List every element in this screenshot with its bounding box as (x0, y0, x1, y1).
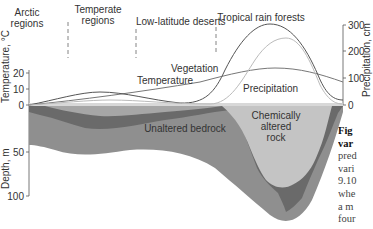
region-labels: Arctic regions Temperate regions Low-lat… (11, 4, 305, 29)
region-dividers (68, 22, 216, 58)
vegetation-label: Vegetation (171, 63, 218, 74)
depth-axis: 50 100 Depth, m (0, 105, 29, 202)
region-temperate-line1: Temperate (74, 4, 122, 15)
caption-bold-line-1: Fig (338, 125, 373, 138)
unaltered-bedrock-label: Unaltered bedrock (144, 123, 227, 134)
precipitation-axis-label: Precipitation, cm (361, 23, 372, 97)
region-arctic-line1: Arctic (15, 7, 40, 18)
depth-axis-label: Depth, m (0, 148, 11, 189)
caption-line: four (338, 213, 373, 226)
temperature-axis-label: Temperature, °C (0, 30, 11, 103)
caption-line: vari (338, 163, 373, 176)
caption-line: are (338, 226, 373, 229)
altered-rock-label-2: altered (261, 121, 292, 132)
temperature-axis: 20 10 0 Temperature, °C (0, 30, 29, 111)
caption-line: pred (338, 150, 373, 163)
depth-tick-100: 100 (7, 191, 24, 202)
altered-rock-label-1: Chemically (252, 110, 301, 121)
temp-tick-20: 20 (13, 68, 25, 79)
caption-line: a m (338, 201, 373, 214)
temp-tick-10: 10 (13, 84, 25, 95)
region-rainforests: Tropical rain forests (217, 12, 304, 23)
caption-bold-line-2: var (338, 138, 373, 151)
precip-tick-0: 0 (348, 100, 354, 111)
region-deserts: Low-latitude deserts (136, 16, 226, 27)
temperature-label: Temperature (137, 75, 194, 86)
caption-line: whe (338, 188, 373, 201)
weathering-profile-figure: Arctic regions Temperate regions Low-lat… (0, 0, 373, 229)
depth-tick-50: 50 (13, 147, 25, 158)
caption-line: 9.10 (338, 175, 373, 188)
precipitation-axis: 300 200 100 0 Precipitation, cm (343, 20, 372, 111)
region-temperate-line2: regions (82, 15, 115, 26)
figure-caption: Fig var pred vari 9.10 whe a m four are (338, 125, 373, 229)
temp-tick-0: 0 (18, 100, 24, 111)
region-arctic-line2: regions (11, 18, 44, 29)
altered-rock-label-3: rock (267, 132, 287, 143)
precipitation-label: Precipitation (243, 83, 298, 94)
